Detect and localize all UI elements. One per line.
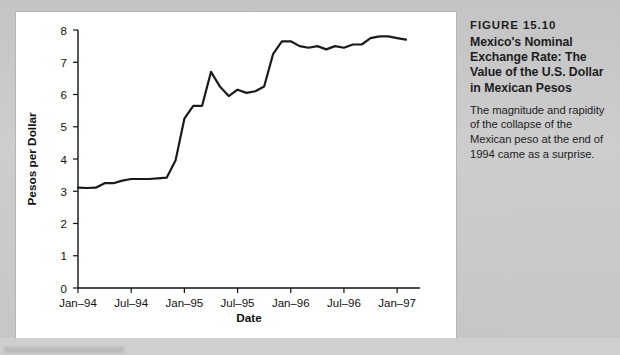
x-axis-title: Date xyxy=(236,311,262,325)
y-axis-tick-label: 8 xyxy=(61,25,67,37)
exchange-rate-line xyxy=(78,36,406,188)
caption-body: The magnitude and rapidity of the collap… xyxy=(470,103,610,161)
y-axis-tick-labels: 012345678 xyxy=(61,25,68,295)
chart-panel: 012345678 Jan–94Jul–94Jan–95Jul–95Jan–96… xyxy=(16,12,456,338)
page-bottom-strip xyxy=(0,338,620,355)
y-axis-tick-label: 3 xyxy=(61,186,67,198)
x-axis-tick-label: Jan–97 xyxy=(378,297,416,309)
x-axis-ticks xyxy=(78,288,397,293)
figure-root: 012345678 Jan–94Jul–94Jan–95Jul–95Jan–96… xyxy=(0,0,620,355)
figure-caption: FIGURE 15.10 Mexico's Nominal Exchange R… xyxy=(470,18,610,161)
y-axis-ticks xyxy=(73,30,78,288)
y-axis-title: Pesos per Dollar xyxy=(25,112,39,206)
chart-axes xyxy=(73,30,420,293)
scan-artifact xyxy=(4,347,124,353)
y-axis-tick-label: 1 xyxy=(61,250,67,262)
caption-figure-number: FIGURE 15.10 xyxy=(470,18,610,32)
x-axis-tick-label: Jan–96 xyxy=(272,297,310,309)
y-axis-tick-label: 4 xyxy=(61,154,68,166)
y-axis-tick-label: 6 xyxy=(61,89,67,101)
line-chart: 012345678 Jan–94Jul–94Jan–95Jul–95Jan–96… xyxy=(16,12,456,338)
y-axis-tick-label: 0 xyxy=(61,283,67,295)
x-axis-tick-label: Jul–96 xyxy=(327,297,361,309)
x-axis-tick-label: Jul–95 xyxy=(221,297,255,309)
y-axis-tick-label: 7 xyxy=(61,57,67,69)
caption-title: Mexico's Nominal Exchange Rate: The Valu… xyxy=(470,35,610,96)
x-axis-tick-labels: Jan–94Jul–94Jan–95Jul–95Jan–96Jul–96Jan–… xyxy=(59,297,416,309)
x-axis-tick-label: Jan–94 xyxy=(59,297,97,309)
x-axis-tick-label: Jul–94 xyxy=(114,297,148,309)
y-axis-tick-label: 2 xyxy=(61,218,67,230)
y-axis-tick-label: 5 xyxy=(61,121,67,133)
x-axis-tick-label: Jan–95 xyxy=(166,297,204,309)
